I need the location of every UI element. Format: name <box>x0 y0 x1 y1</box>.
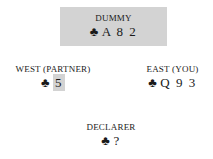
club-icon: ♣ <box>41 75 51 90</box>
east-label: EAST (YOU) <box>135 64 210 74</box>
east-hand: EAST (YOU) ♣Q 9 3 <box>135 64 210 91</box>
dummy-hand: DUMMY ♣A 8 2 <box>60 7 167 46</box>
declarer-label: DECLARER <box>66 122 156 132</box>
club-icon: ♣ <box>90 24 100 39</box>
west-played-card: 5 <box>53 74 65 91</box>
declarer-cards: ♣? <box>66 133 156 149</box>
east-cards: ♣Q 9 3 <box>135 75 210 91</box>
declarer-card-values: ? <box>113 133 120 148</box>
west-label: WEST (PARTNER) <box>8 64 98 74</box>
west-hand: WEST (PARTNER) ♣5 <box>8 64 98 91</box>
club-icon: ♣ <box>101 133 111 148</box>
dummy-card-values: A 8 2 <box>102 24 138 39</box>
west-cards: ♣5 <box>8 75 98 91</box>
dummy-cards: ♣A 8 2 <box>60 24 167 40</box>
declarer-hand: DECLARER ♣? <box>66 122 156 149</box>
club-icon: ♣ <box>148 75 158 90</box>
dummy-label: DUMMY <box>60 13 167 23</box>
east-card-values: Q 9 3 <box>160 75 196 90</box>
